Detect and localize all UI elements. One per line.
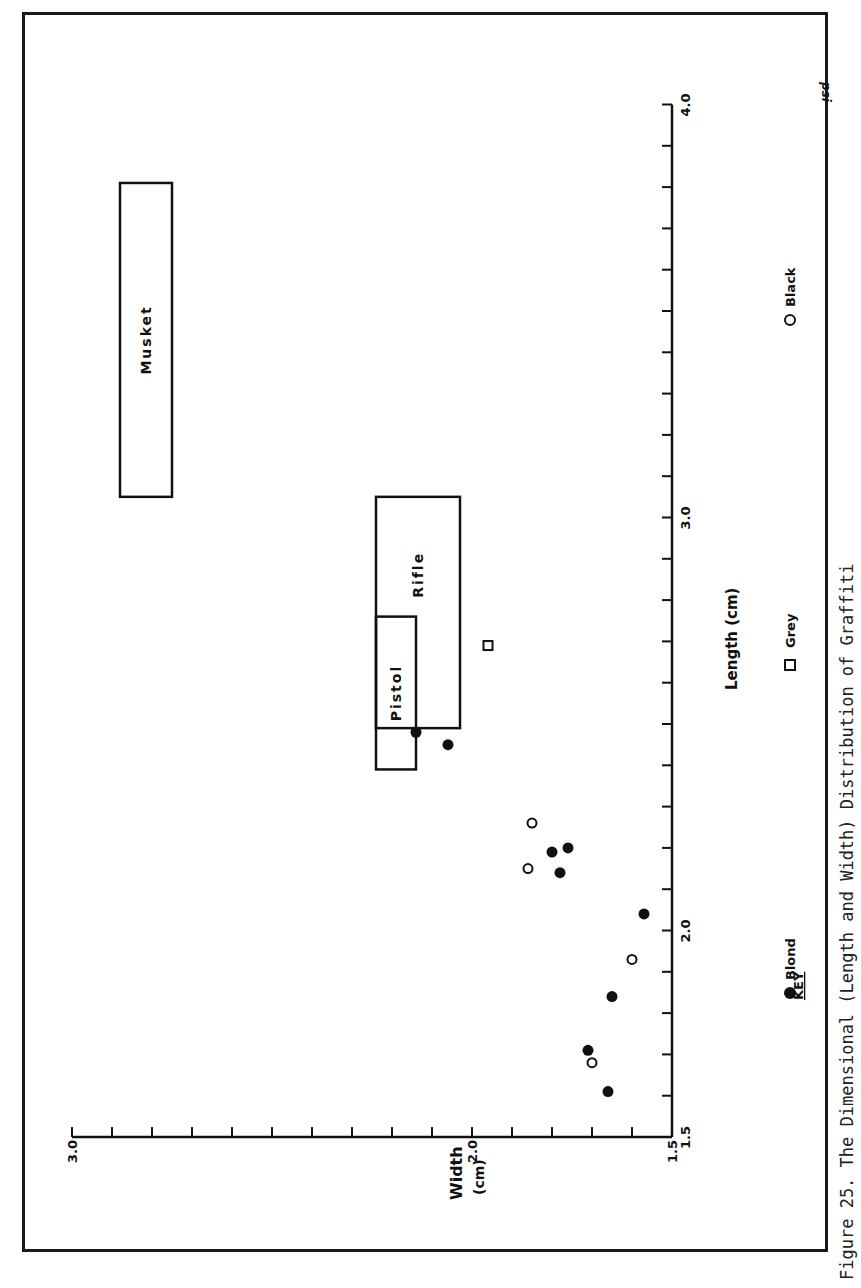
data-points [411,641,650,1097]
axes: 1.52.03.04.01.52.03.0 [65,93,693,1163]
point-blond [639,908,650,919]
blond-legend-marker-icon [784,987,796,999]
point-blond [555,867,566,878]
box-label-musket: Musket [138,305,154,374]
point-black [588,1058,597,1067]
length-axis-label: Length (cm) [723,588,741,690]
width-tick-label: 3.0 [65,1140,80,1163]
length-tick-label: 4.0 [678,93,693,116]
box-label-pistol: Pistol [388,665,404,722]
key-label-grey: Grey [783,613,798,648]
reference-boxes: MusketRiflePistol [120,183,460,769]
point-blond [603,1086,614,1097]
grey-legend-marker-icon [785,660,795,670]
point-black [628,955,637,964]
key-label-blond: Blond [783,938,798,980]
figure-caption: Figure 25. The Dimensional (Length and W… [837,564,857,1280]
signature: psi [819,81,833,103]
point-grey [484,641,493,650]
point-blond [583,1045,594,1056]
width-axis-label-line2: (cm) [471,1159,487,1195]
point-blond [547,847,558,858]
length-tick-label: 3.0 [678,506,693,529]
key-label-black: Black [783,267,798,307]
point-black [528,819,537,828]
box-label-rifle: Rifle [410,552,426,598]
point-blond [443,739,454,750]
width-axis-label-line1: Width [447,1146,466,1200]
scatter-chart: 1.52.03.04.01.52.03.0 MusketRiflePistol … [0,0,861,1288]
point-blond [563,842,574,853]
point-black [524,864,533,873]
length-tick-label: 2.0 [678,919,693,942]
point-blond [607,991,618,1002]
point-blond [411,727,422,738]
width-tick-label: 1.5 [665,1140,680,1163]
length-tick-label: 1.5 [678,1126,693,1149]
black-legend-marker-icon [785,315,795,325]
